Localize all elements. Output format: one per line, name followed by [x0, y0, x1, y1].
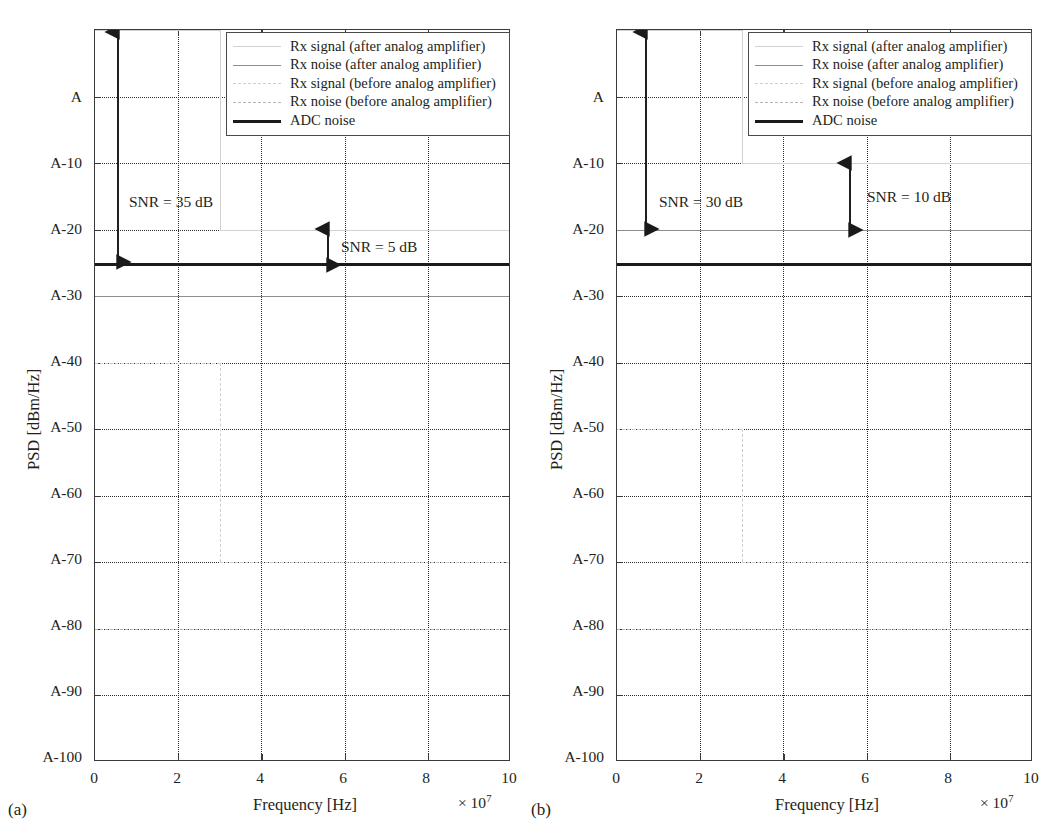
y-tick-label: A-80	[0, 617, 82, 633]
y-tick	[1025, 429, 1031, 430]
snr-arrow-5db	[319, 227, 337, 267]
figure-root: A A-10 A-20 A-30 A-40 A-50 A-60 A-70 A-8…	[0, 0, 1062, 837]
series-rx-signal-before-amp	[95, 363, 220, 364]
x-axis-title: Frequency [Hz]	[180, 795, 430, 815]
series-rx-signal-after-amp	[220, 230, 509, 231]
y-tick-label: A-80	[531, 617, 604, 633]
y-axis-title: PSD [dBm/Hz]	[24, 369, 44, 470]
plot-inner-a: SNR = 35 dB SNR = 5 dB	[95, 30, 509, 760]
legend-label: Rx noise (after analog amplifier)	[290, 57, 481, 72]
subplot-caption-a: (a)	[8, 800, 27, 820]
x-tick	[700, 754, 701, 760]
gridline-horizontal	[617, 363, 1031, 364]
series-adc-noise	[617, 263, 1031, 266]
y-axis-title: PSD [dBm/Hz]	[547, 369, 567, 470]
legend-label: ADC noise	[812, 113, 877, 128]
y-tick-label: A	[531, 89, 604, 105]
y-tick	[617, 97, 623, 98]
legend-row: Rx noise (after analog amplifier)	[233, 56, 501, 75]
y-tick-label: A-20	[531, 221, 604, 237]
legend-row: Rx noise (before analog amplifier)	[233, 93, 501, 112]
x-tick-label: 8	[928, 770, 968, 786]
series-rx-signal-before-amp	[220, 363, 221, 563]
plot-area-a: SNR = 35 dB SNR = 5 dB Rx signal (after …	[94, 29, 510, 761]
gridline-vertical	[261, 30, 262, 760]
y-tick	[95, 230, 101, 231]
gridline-horizontal	[617, 695, 1031, 696]
x-tick-label: 8	[406, 770, 446, 786]
plot-inner-b: SNR = 30 dB SNR = 10 dB	[617, 30, 1031, 760]
y-tick	[617, 163, 623, 164]
x-tick	[950, 754, 951, 760]
x-tick-label: 10	[1011, 770, 1051, 786]
gridline-horizontal	[95, 163, 509, 164]
y-tick-label: A-20	[0, 221, 82, 237]
gridline-horizontal	[95, 429, 509, 430]
legend-row: Rx noise (after analog amplifier)	[755, 56, 1023, 75]
legend-label: Rx signal (after analog amplifier)	[812, 39, 1007, 54]
y-tick-label: A-60	[531, 485, 604, 501]
y-tick	[617, 363, 623, 364]
y-tick-label: A-30	[531, 287, 604, 303]
legend-label: Rx noise (before analog amplifier)	[290, 94, 492, 109]
legend-b: Rx signal (after analog amplifier) Rx no…	[748, 32, 1032, 136]
x-tick-label: 4	[240, 770, 280, 786]
y-tick-label: A-40	[0, 353, 82, 369]
y-tick-label: A-10	[531, 155, 604, 171]
legend-label: Rx signal (after analog amplifier)	[290, 39, 485, 54]
y-tick	[617, 496, 623, 497]
gridline-vertical	[345, 30, 346, 760]
x-tick	[261, 754, 262, 760]
x-exponent-value: 7	[486, 793, 491, 804]
gridline-vertical	[700, 30, 701, 760]
legend-row: Rx noise (before analog amplifier)	[755, 93, 1023, 112]
gridline-vertical	[867, 30, 868, 760]
x-tick	[345, 754, 346, 760]
legend-row: Rx signal (before analog amplifier)	[755, 74, 1023, 93]
panel-a: A A-10 A-20 A-30 A-40 A-50 A-60 A-70 A-8…	[0, 0, 531, 837]
y-tick	[617, 695, 623, 696]
y-tick-label: A-90	[531, 683, 604, 699]
snr-annotation-b-1: SNR = 30 dB	[659, 193, 743, 211]
x-tick-label: 2	[157, 770, 197, 786]
y-tick	[1025, 695, 1031, 696]
series-rx-signal-before-amp	[617, 429, 742, 430]
y-tick-label: A-70	[0, 551, 82, 567]
legend-label: Rx noise (before analog amplifier)	[812, 94, 1014, 109]
x-tick	[178, 754, 179, 760]
x-tick-label: 4	[762, 770, 802, 786]
snr-arrow-35db	[109, 30, 127, 264]
legend-a: Rx signal (after analog amplifier) Rx no…	[226, 32, 510, 136]
x-tick	[867, 754, 868, 760]
snr-annotation-a-1: SNR = 35 dB	[129, 193, 213, 211]
legend-label: ADC noise	[290, 113, 355, 128]
y-tick	[95, 163, 101, 164]
gridline-horizontal	[617, 496, 1031, 497]
y-tick	[503, 363, 509, 364]
x-exponent-prefix: × 10	[980, 794, 1008, 811]
series-rx-signal-after-amp	[220, 30, 221, 230]
x-tick-label: 10	[489, 770, 529, 786]
plot-area-b: SNR = 30 dB SNR = 10 dB Rx signal (after…	[616, 29, 1032, 761]
y-tick	[503, 163, 509, 164]
subplot-caption-b: (b)	[531, 800, 551, 820]
legend-row: Rx signal (before analog amplifier)	[233, 74, 501, 93]
legend-row: ADC noise	[233, 111, 501, 130]
y-tick	[1025, 296, 1031, 297]
gridline-vertical	[428, 30, 429, 760]
y-tick-label: A-40	[531, 353, 604, 369]
series-rx-signal-before-amp	[742, 562, 1031, 563]
gridline-horizontal	[617, 296, 1031, 297]
y-tick	[617, 562, 623, 563]
y-tick	[503, 429, 509, 430]
series-rx-signal-before-amp	[742, 429, 743, 562]
x-tick-label: 0	[596, 770, 636, 786]
series-rx-signal-after-amp	[742, 163, 1031, 164]
y-tick-label: A-50	[531, 419, 604, 435]
y-tick-label: A-90	[0, 683, 82, 699]
y-tick-label: A-100	[0, 749, 82, 765]
y-tick-label: A-70	[531, 551, 604, 567]
y-tick-label: A	[0, 89, 82, 105]
x-exponent-value: 7	[1008, 793, 1013, 804]
y-tick	[95, 429, 101, 430]
